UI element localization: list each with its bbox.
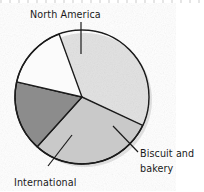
pie-label-biscuit-and-bakery-line1: Biscuit and: [140, 148, 194, 159]
pie-chart-figure: North America International Biscuit and …: [0, 0, 204, 192]
pie-label-north-america: North America: [30, 9, 101, 20]
pie-label-international: International: [14, 177, 77, 188]
pie-label-biscuit-and-bakery-line2: bakery: [140, 163, 174, 174]
pie-chart-svg: North America International Biscuit and …: [0, 0, 204, 192]
